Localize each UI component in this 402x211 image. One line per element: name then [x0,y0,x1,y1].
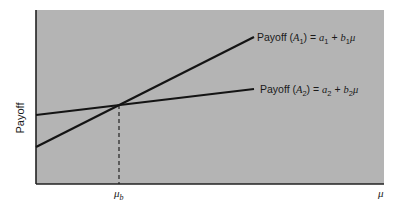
mu-b-label: μb [113,187,124,202]
y-axis-label: Payoff [14,102,26,134]
x-axis-label: μ [377,187,384,199]
payoff-chart: Payoff μ μb Payoff (A1) = a1 + b1μ Payof… [0,0,402,211]
